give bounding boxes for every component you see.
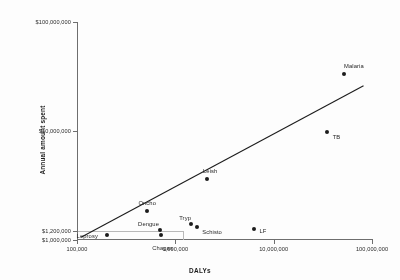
x-tick-label: 1,000,000 (162, 246, 188, 252)
data-point-label: TB (333, 134, 341, 140)
data-point-marker (342, 72, 346, 76)
x-tick-label: 10,000,000 (259, 246, 288, 252)
data-point-label: Dengue (138, 221, 159, 227)
data-point-marker (189, 222, 193, 226)
y-tick-label: $100,000,000 (36, 19, 71, 25)
data-point-marker (158, 228, 162, 232)
x-axis-title: DALYs (0, 267, 400, 274)
y-axis-title: Annual amount spent (39, 105, 46, 174)
data-point-marker (105, 233, 109, 237)
y-tick-label: $1,200,000 (42, 228, 71, 234)
data-point-label: Oncho (138, 200, 156, 206)
plot-area: LeprosyOnchoChagasDengueTrypSchistoLeish… (77, 22, 372, 240)
data-point-label: Schisto (202, 229, 222, 235)
y-tick-label: $10,000,000 (39, 128, 71, 134)
x-tick-label: 100,000 (67, 246, 88, 252)
data-point-label: LF (259, 228, 266, 234)
data-point-marker (205, 177, 209, 181)
data-point-label: Leish (203, 168, 217, 174)
x-tick (372, 239, 373, 244)
data-point-marker (325, 130, 329, 134)
chart-figure: Annual amount spent DALYs LeprosyOnchoCh… (0, 0, 400, 280)
y-tick-label: $1,000,000 (42, 237, 71, 243)
data-point-marker (252, 227, 256, 231)
data-point-label: Tryp (179, 215, 191, 221)
x-tick-label: 100,000,000 (356, 246, 388, 252)
data-point-label: Malaria (344, 63, 364, 69)
data-point-marker (195, 225, 199, 229)
data-point-label: Leprosy (77, 233, 98, 239)
data-point-marker (159, 233, 163, 237)
data-point-marker (145, 209, 149, 213)
